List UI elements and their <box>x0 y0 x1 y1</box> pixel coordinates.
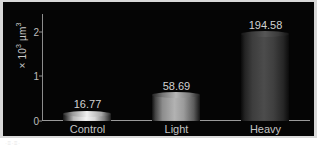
x-tick-label-control: Control <box>43 122 132 136</box>
chart-canvas: × 103 µm3 0 1 2 16.77 <box>3 2 314 136</box>
bottom-left-artifact: ·≡·≡· <box>5 140 21 146</box>
figure-frame: × 103 µm3 0 1 2 16.77 <box>0 0 317 138</box>
bar-heavy-cap <box>241 31 289 37</box>
x-tick-label-light: Light <box>132 122 221 136</box>
bar-control[interactable] <box>63 114 111 122</box>
bar-slot-light: 58.69 <box>132 14 221 121</box>
bar-value-heavy: 194.58 <box>249 19 283 31</box>
bar-light[interactable] <box>152 95 200 121</box>
bar-light-cap <box>152 92 200 98</box>
y-axis-ticks: 0 1 2 <box>7 2 39 136</box>
bar-heavy-body <box>241 34 289 121</box>
x-tick-label-heavy: Heavy <box>221 122 310 136</box>
y-tick-label-2: 2 <box>11 26 39 37</box>
bar-value-control: 16.77 <box>74 98 102 110</box>
bar-slot-heavy: 194.58 <box>221 14 310 121</box>
bar-value-light: 58.69 <box>163 80 191 92</box>
plot-area: 16.77 58.69 194.58 <box>43 14 310 121</box>
bar-heavy[interactable] <box>241 34 289 121</box>
y-tick-label-0: 0 <box>11 116 39 127</box>
bar-slot-control: 16.77 <box>43 14 132 121</box>
x-axis-category-labels: Control Light Heavy <box>43 122 310 136</box>
bar-control-cap <box>63 111 111 117</box>
y-tick-label-1: 1 <box>11 71 39 82</box>
bar-light-body <box>152 95 200 121</box>
